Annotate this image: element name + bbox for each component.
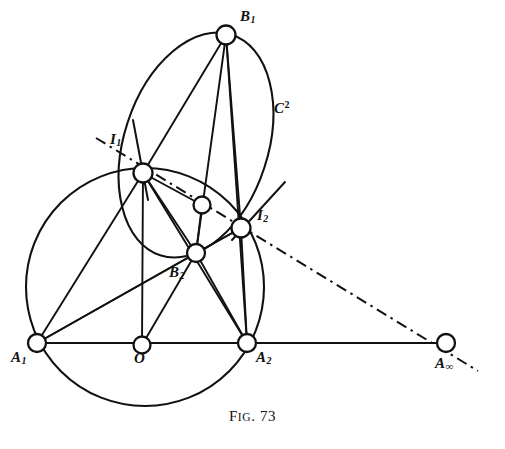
geometry-diagram xyxy=(0,0,505,449)
label-b2: B2 xyxy=(169,265,184,281)
label-b1: B1 xyxy=(240,9,255,25)
label-conic-c2: C2 xyxy=(274,100,289,116)
line-i2-a2 xyxy=(241,228,247,343)
auxiliary-circle-curve xyxy=(26,168,264,406)
label-a2: A2 xyxy=(256,350,271,366)
label-i1: I1 xyxy=(110,132,121,148)
point-marker-ainf xyxy=(437,334,455,352)
line-i1-a1 xyxy=(37,173,143,343)
figure-caption: FIG. 73 xyxy=(0,408,505,425)
label-a-infinity: A∞ xyxy=(435,356,453,372)
auxiliary-circle xyxy=(26,168,264,406)
conic-c2-curve xyxy=(92,12,301,277)
figure-container: B1 C2 I1 I2 B2 A1 O A2 A∞ FIG. 73 xyxy=(0,0,505,449)
line-b1-i1 xyxy=(143,35,226,173)
tangent-at-i1 xyxy=(133,120,148,200)
point-marker-b1 xyxy=(217,26,236,45)
line-b2-a2 xyxy=(196,253,247,343)
point-marker-b2 xyxy=(187,244,205,262)
point-marker-i2 xyxy=(232,219,251,238)
label-a1: A1 xyxy=(11,350,26,366)
conic-c2-ellipse xyxy=(92,12,301,277)
line-i2-a1 xyxy=(37,228,241,343)
point-marker-p xyxy=(194,197,211,214)
label-i2: I2 xyxy=(257,208,268,224)
point-marker-a1 xyxy=(28,334,46,352)
label-o: O xyxy=(134,351,145,366)
point-marker-i1 xyxy=(134,164,153,183)
line-i1-o xyxy=(142,173,143,345)
point-marker-a2 xyxy=(238,334,256,352)
point-markers xyxy=(28,26,455,354)
